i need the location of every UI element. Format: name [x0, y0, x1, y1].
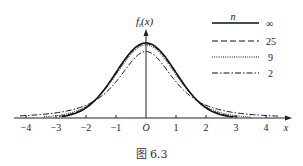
- x-axis-label: x: [283, 122, 289, 133]
- y-axis-arrow-icon: [144, 29, 149, 36]
- figure-caption: 图 6.3: [0, 145, 303, 161]
- y-axis-label: ft(x): [136, 15, 154, 29]
- x-tick-label: 4: [264, 122, 269, 133]
- x-tick-label: −1: [111, 122, 122, 133]
- legend-label-inf: ∞: [266, 18, 273, 29]
- legend-title: n: [231, 11, 236, 22]
- curve-n-2: [20, 52, 278, 117]
- legend-label-25: 25: [266, 36, 276, 47]
- x-tick-label: 3: [234, 122, 239, 133]
- legend-label-2: 2: [268, 68, 273, 79]
- origin-label: O: [142, 122, 149, 133]
- x-tick-label: −4: [21, 122, 32, 133]
- x-tick-label: 2: [204, 122, 209, 133]
- curve-n-25: [59, 44, 239, 117]
- x-tick-label: −2: [81, 122, 92, 133]
- x-axis-arrow-icon: [285, 116, 292, 121]
- legend-label-9: 9: [268, 52, 273, 63]
- legend: n ∞ 25 9 2: [212, 11, 276, 79]
- curve-n-9: [44, 45, 251, 117]
- t-distribution-chart: −4−3−2−11234 O x ft(x) n ∞ 25 9 2: [0, 0, 303, 166]
- x-tick-label: −3: [51, 122, 62, 133]
- x-tick-label: 1: [174, 122, 179, 133]
- density-curves: [20, 43, 278, 117]
